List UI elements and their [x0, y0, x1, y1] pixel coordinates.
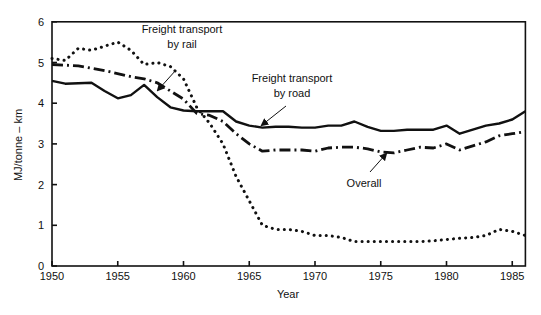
y-tick-label: 3: [38, 138, 44, 150]
y-axis-label: MJ/tonne – km: [12, 109, 24, 181]
annotation-label: by road: [274, 87, 311, 99]
y-tick-label: 5: [38, 57, 44, 69]
x-tick-label: 1985: [500, 270, 524, 282]
x-tick-label: 1960: [171, 270, 195, 282]
x-tick-label: 1975: [369, 270, 393, 282]
x-tick-label: 1950: [40, 270, 64, 282]
x-tick-label: 1955: [106, 270, 130, 282]
annotation-label: Freight transport: [142, 23, 223, 35]
y-tick-label: 6: [38, 16, 44, 28]
y-tick-label: 1: [38, 219, 44, 231]
x-tick-label: 1980: [434, 270, 458, 282]
x-tick-label: 1965: [237, 270, 261, 282]
x-tick-label: 1970: [303, 270, 327, 282]
y-tick-label: 4: [38, 97, 44, 109]
annotation-label: Overall: [347, 177, 382, 189]
y-tick-label: 2: [38, 179, 44, 191]
x-axis: 19501955196019651970197519801985: [40, 261, 525, 282]
x-axis-label: Year: [277, 288, 300, 300]
annotation-label: by rail: [167, 38, 196, 50]
y-axis: 0123456: [38, 16, 57, 272]
annotation-label: Freight transport: [252, 72, 333, 84]
plot-frame: [52, 22, 525, 266]
annotations: Freight transportby railFreight transpor…: [142, 23, 386, 189]
line-chart: 0123456 19501955196019651970197519801985…: [0, 0, 541, 315]
plot-border: [52, 22, 525, 266]
annotation-arrow-icon: [262, 106, 286, 125]
annotation-arrow-icon: [158, 70, 176, 90]
annotation-arrow-icon: [370, 154, 386, 172]
